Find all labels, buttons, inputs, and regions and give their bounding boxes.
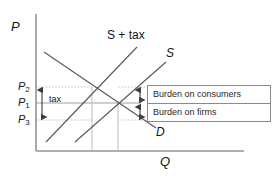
x-axis-label: Q <box>160 155 170 168</box>
legend-row-burden-consumers: Burden on consumers <box>148 86 270 104</box>
curve-label-supply: S <box>166 47 174 59</box>
supply-demand-tax-diagram: P Q S + tax S D P2 P1 P3 tax Burden on c… <box>0 0 277 176</box>
price-label-p1-sub: 1 <box>25 101 29 110</box>
legend-label-burden-firms: Burden on firms <box>153 107 217 117</box>
burden-legend: Burden on consumers Burden on firms <box>147 85 271 122</box>
tax-bracket-label: tax <box>49 95 61 104</box>
price-label-p2: P2 <box>18 81 30 92</box>
legend-row-burden-firms: Burden on firms <box>148 104 270 122</box>
curve-demand <box>44 52 156 128</box>
y-axis-label: P <box>11 20 20 33</box>
curve-label-supply-plus-tax: S + tax <box>107 29 145 41</box>
price-label-p3: P3 <box>18 114 30 125</box>
legend-label-burden-consumers: Burden on consumers <box>153 89 241 99</box>
price-label-p3-sub: 3 <box>25 118 29 127</box>
curve-label-demand: D <box>156 126 165 138</box>
quantity-guide-lines <box>92 87 118 151</box>
price-label-p2-sub: 2 <box>25 85 29 94</box>
price-label-p1: P1 <box>18 97 30 108</box>
